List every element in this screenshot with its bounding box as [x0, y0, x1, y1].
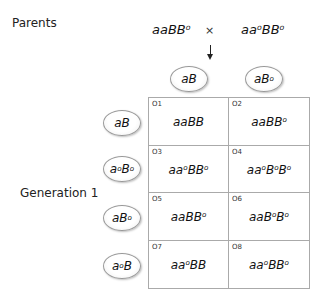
- cell-genotype: aaoBB: [149, 258, 228, 272]
- cell-id: O7: [152, 243, 162, 251]
- offspring-cell-o7: O7 aaoBB: [149, 241, 229, 289]
- parent-left-genotype: aaBBo: [152, 22, 191, 37]
- row-gamete-2: aoBo: [103, 156, 141, 182]
- offspring-cell-o4: O4 aaoBoBo: [229, 146, 309, 194]
- cell-genotype: aaBB: [149, 115, 228, 129]
- cell-id: O8: [232, 243, 242, 251]
- cell-genotype: aaBBo: [149, 210, 228, 224]
- cell-id: O2: [232, 100, 242, 108]
- row-gamete-4: aoB: [103, 253, 141, 279]
- cell-genotype: aaoBBo: [149, 163, 228, 177]
- offspring-cell-o6: O6 aaBoBo: [229, 193, 309, 241]
- offspring-cell-o8: O8 aaoBBo: [229, 241, 309, 289]
- cell-id: O3: [152, 148, 162, 156]
- cell-id: O1: [152, 100, 162, 108]
- cross-symbol: ×: [205, 24, 214, 37]
- offspring-cell-o1: O1 aaBB: [149, 98, 229, 146]
- column-gamete-2: aBo: [245, 66, 283, 92]
- cell-id: O4: [232, 148, 242, 156]
- cell-genotype: aaoBoBo: [229, 163, 309, 177]
- cell-genotype: aaBBo: [229, 115, 309, 129]
- offspring-cell-o3: O3 aaoBBo: [149, 146, 229, 194]
- arrow-down-icon: [207, 54, 213, 60]
- row-gamete-1: aB: [103, 110, 141, 136]
- parent-right-genotype: aaoBBo: [241, 22, 284, 37]
- cell-id: O6: [232, 195, 242, 203]
- punnett-square: O1 aaBB O2 aaBBo O3 aaoBBo O4 aaoBoBo O5…: [148, 97, 310, 289]
- offspring-cell-o2: O2 aaBBo: [229, 98, 309, 146]
- row-gamete-3: aBo: [103, 205, 141, 231]
- cell-genotype: aaoBBo: [229, 258, 309, 272]
- column-gamete-1: aB: [170, 66, 208, 92]
- parents-label: Parents: [12, 16, 57, 30]
- cell-id: O5: [152, 195, 162, 203]
- offspring-cell-o5: O5 aaBBo: [149, 193, 229, 241]
- generation-label: Generation 1: [20, 186, 98, 200]
- cell-genotype: aaBoBo: [229, 210, 309, 224]
